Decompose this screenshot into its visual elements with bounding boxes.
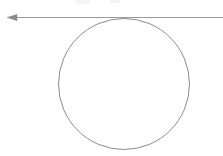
figure-canvas xyxy=(0,0,223,156)
tangent-circle xyxy=(59,19,190,150)
arrow-head-left-icon xyxy=(7,14,17,20)
faint-mark-right xyxy=(110,0,120,3)
geometry-figure xyxy=(0,0,223,156)
faint-mark-left xyxy=(76,0,90,4)
